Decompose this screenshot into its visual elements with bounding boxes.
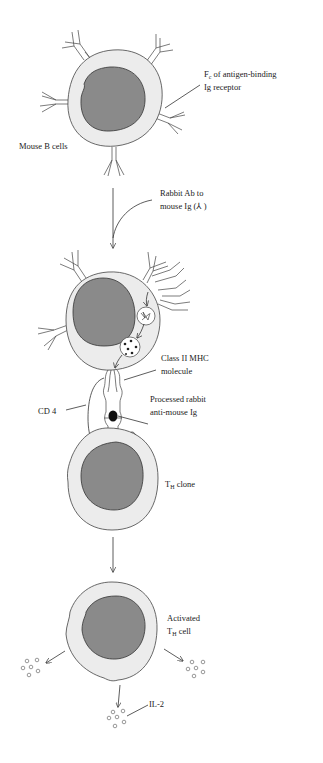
rabbit-ab-label-line1: Rabbit Ab to — [160, 188, 203, 198]
secretion-arrow-right-icon — [164, 649, 183, 661]
activated-cell-nucleus — [82, 596, 145, 659]
th-cell-nucleus — [81, 442, 143, 510]
secretion-arrow-left-icon — [46, 651, 65, 663]
processed-peptide-icon — [109, 411, 118, 422]
processed-label-line2: anti-mouse Ig — [150, 407, 198, 417]
b-cell-nucleus — [81, 67, 145, 131]
rabbit-ab-pointer — [113, 200, 152, 238]
fc-pointer-line — [165, 85, 200, 108]
processed-label-line1: Processed rabbit — [150, 394, 207, 404]
endosome-icon — [137, 307, 155, 325]
cd4-label: CD 4 — [38, 406, 57, 416]
fc-receptor-label-line2: Ig receptor — [204, 82, 241, 92]
fc-receptor-label: Fc of antigen-binding — [204, 69, 277, 80]
th-clone-cell — [67, 428, 158, 530]
class-ii-pointer — [124, 370, 156, 380]
th-clone-label: TH clone — [165, 479, 195, 490]
il2-label: IL-2 — [149, 699, 164, 709]
class-ii-label-line1: Class II MHC — [161, 353, 209, 363]
rabbit-ab-label-line2: mouse Ig (⅄ ) — [160, 201, 207, 211]
class-ii-label-line2: molecule — [161, 366, 192, 376]
il2-cluster-right-icon — [186, 660, 205, 678]
diagram-canvas: Fc of antigen-binding Ig receptor Mouse … — [0, 0, 323, 763]
il2-cluster-left-icon — [21, 658, 40, 677]
b-cell-nucleus — [73, 278, 135, 346]
cd4-pointer — [66, 405, 86, 410]
il2-pointer — [127, 705, 148, 716]
processed-pointer — [118, 416, 148, 424]
activated-label-line2: TH cell — [167, 626, 192, 637]
activated-label-line1: Activated — [167, 613, 201, 623]
il2-cluster-bottom-icon — [107, 709, 126, 728]
mouse-b-cell — [40, 30, 185, 176]
mouse-b-cells-label: Mouse B cells — [19, 141, 68, 151]
secretion-arrow-down-icon — [118, 685, 120, 707]
activated-th-cell — [66, 582, 157, 681]
